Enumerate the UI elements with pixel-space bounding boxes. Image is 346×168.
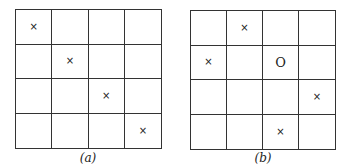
grid-cell-r3-c2: × <box>263 115 299 150</box>
grid-cell-r0-c2 <box>89 10 125 45</box>
cross-mark-icon: × <box>204 57 212 67</box>
grid-cell-r3-c0 <box>191 115 227 150</box>
cross-mark-icon: × <box>276 127 284 137</box>
grid-cell-r0-c0: × <box>16 10 52 45</box>
grid-cell-r1-c2: O <box>263 46 299 81</box>
grid-cell-r2-c0 <box>191 80 227 115</box>
grid-cell-r3-c2 <box>89 114 125 149</box>
grid-cell-r1-c2 <box>89 45 125 80</box>
circle-mark-icon: O <box>275 56 286 69</box>
grid-cell-r3-c0 <box>16 114 52 149</box>
grid-cell-r2-c1 <box>227 80 263 115</box>
grid-cell-r0-c0 <box>191 11 227 46</box>
cross-mark-icon: × <box>240 23 248 33</box>
grid-cell-r3-c3 <box>299 115 335 150</box>
cross-mark-icon: × <box>66 56 74 66</box>
cross-mark-icon: × <box>29 22 37 32</box>
caption-a: (a) <box>68 151 108 165</box>
grid-panel-b: ××O×× <box>190 10 336 150</box>
grid-cell-r2-c2: × <box>89 79 125 114</box>
grid-cell-r3-c3: × <box>125 114 161 149</box>
grid-cell-r1-c3 <box>299 46 335 81</box>
grid-cell-r2-c1 <box>52 79 88 114</box>
grid-cell-r1-c1: × <box>52 45 88 80</box>
grid-cell-r1-c1 <box>227 46 263 81</box>
grid-cell-r2-c0 <box>16 79 52 114</box>
grid-cell-r0-c2 <box>263 11 299 46</box>
caption-b: (b) <box>243 151 283 165</box>
grid-cell-r2-c3 <box>125 79 161 114</box>
grid-cell-r2-c3: × <box>299 80 335 115</box>
grid-cell-r0-c1: × <box>227 11 263 46</box>
grid-cell-r3-c1 <box>52 114 88 149</box>
grid-panel-a: ×××× <box>15 9 162 149</box>
grid-cell-r0-c3 <box>125 10 161 45</box>
cross-mark-icon: × <box>139 126 147 136</box>
grid-cell-r1-c0: × <box>191 46 227 81</box>
cross-mark-icon: × <box>313 92 321 102</box>
grid-cell-r0-c3 <box>299 11 335 46</box>
grid-cell-r0-c1 <box>52 10 88 45</box>
grid-cell-r1-c3 <box>125 45 161 80</box>
grid-cell-r3-c1 <box>227 115 263 150</box>
cross-mark-icon: × <box>102 91 110 101</box>
grid-cell-r2-c2 <box>263 80 299 115</box>
grid-cell-r1-c0 <box>16 45 52 80</box>
